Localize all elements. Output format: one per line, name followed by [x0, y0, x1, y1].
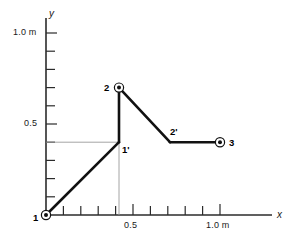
x-axis-label: x — [277, 209, 282, 220]
x-tick-label-1p0: 1.0 m — [206, 220, 230, 230]
node-label-2: 2 — [104, 82, 109, 93]
node-label-1-prime: 1' — [122, 144, 130, 155]
node-marker-3 — [215, 138, 224, 147]
plot-drawing — [0, 0, 296, 240]
node-label-2-prime: 2' — [170, 126, 178, 137]
y-tick-label-1p0: 1.0 m — [13, 27, 37, 37]
node-marker-2 — [114, 83, 123, 92]
x-tick-label-0p5: 0.5 — [124, 220, 137, 230]
node-label-1: 1 — [33, 212, 38, 223]
y-axis-ticks — [46, 33, 57, 197]
y-axis-label: y — [49, 8, 54, 19]
y-tick-label-0p5: 0.5 — [24, 118, 37, 128]
member-1-to-1prime — [46, 142, 119, 215]
x-axis-ticks — [63, 204, 220, 215]
node-label-3: 3 — [229, 137, 234, 148]
node-marker-1 — [41, 210, 50, 219]
member-2-to-2prime — [119, 88, 170, 143]
figure-canvas: y x 1.0 m 0.5 0.5 1.0 m 1 2 1' 2' 3 — [0, 0, 296, 240]
